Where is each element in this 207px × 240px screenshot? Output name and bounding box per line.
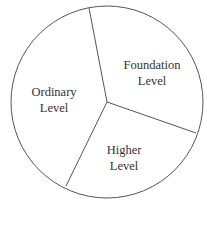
slice-label-higher-line1: Higher [102,142,146,158]
slice-label-foundation-line1: Foundation [118,57,186,73]
slice-label-ordinary-line1: Ordinary [28,84,80,100]
slice-label-ordinary-line2: Level [28,100,80,116]
slice-label-higher-line2: Level [102,158,146,174]
slice-label-foundation: Foundation Level [118,57,186,89]
slice-label-foundation-line2: Level [118,73,186,89]
slice-label-ordinary: Ordinary Level [28,84,80,116]
slice-label-higher: Higher Level [102,142,146,174]
